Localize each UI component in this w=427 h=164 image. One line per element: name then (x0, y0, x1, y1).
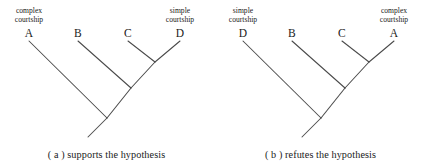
cladogram-figure: complex courtship simple courtship A B C… (0, 0, 427, 164)
branch-node-bcd-b (321, 88, 345, 118)
leaf-label-a-4: D (176, 28, 185, 40)
leaf-label-b-1: D (239, 28, 248, 40)
branch-leaf3-b (342, 41, 369, 62)
caption-b: ( b ) refutes the hypothesis (214, 149, 427, 161)
trait-label-b-leaf4: complex courtship (380, 7, 408, 24)
trait-label-a-leaf4: simple courtship (166, 7, 194, 24)
branch-leaf1-b (243, 41, 321, 118)
branch-node-cd-a (131, 62, 155, 88)
leaf-label-a-1: A (25, 28, 34, 40)
branch-node-cd-b (345, 62, 369, 88)
branch-leaf2-b (292, 41, 345, 88)
trait-line-2: courtship (166, 16, 194, 25)
trait-line-2: courtship (15, 16, 43, 25)
trait-line-2: courtship (380, 16, 408, 25)
panel-b: simple courtship complex courtship D B C… (214, 0, 427, 164)
branch-root-stem-a (88, 118, 107, 137)
caption-a: ( a ) supports the hypothesis (0, 149, 213, 161)
branch-leaf4-b (369, 41, 394, 62)
branch-leaf4-a (155, 41, 180, 62)
trait-label-b-leaf1: simple courtship (229, 7, 257, 24)
branch-leaf3-a (128, 41, 155, 62)
branch-root-stem-b (302, 118, 321, 137)
leaf-label-b-4: A (390, 28, 399, 40)
branch-leaf2-a (78, 41, 131, 88)
branch-leaf1-a (29, 41, 107, 118)
leaf-label-b-3: C (338, 28, 346, 40)
branch-node-bcd-a (107, 88, 131, 118)
leaf-label-a-2: B (74, 28, 82, 40)
leaf-label-a-3: C (124, 28, 132, 40)
trait-line-2: courtship (229, 16, 257, 25)
trait-label-a-leaf1: complex courtship (15, 7, 43, 24)
panel-a: complex courtship simple courtship A B C… (0, 0, 213, 164)
leaf-label-b-2: B (288, 28, 296, 40)
